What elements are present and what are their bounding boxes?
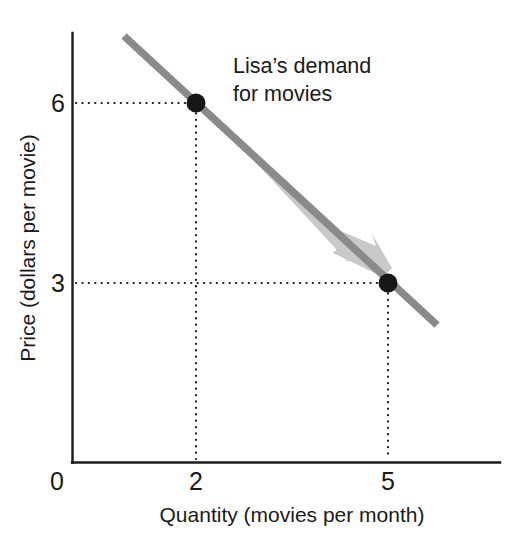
x-tick-label-0: 0: [50, 467, 64, 495]
data-point-2-6: [187, 94, 206, 113]
x-tick-label-5: 5: [381, 467, 395, 495]
y-tick-label-3: 3: [51, 269, 65, 297]
x-tick-label-2: 2: [189, 467, 203, 495]
x-axis-title: Quantity (movies per month): [160, 503, 425, 526]
demand-label-line-2: for movies: [233, 82, 332, 106]
y-axis-title: Price (dollars per movie): [16, 134, 39, 362]
y-tick-label-6: 6: [51, 89, 65, 117]
data-point-5-3: [379, 274, 398, 293]
chart-canvas: 6 3 0 2 5 Price (dollars per movie) Quan…: [0, 0, 521, 536]
demand-label-line-1: Lisa’s demand: [233, 54, 371, 78]
demand-curve-figure: 6 3 0 2 5 Price (dollars per movie) Quan…: [0, 0, 521, 536]
